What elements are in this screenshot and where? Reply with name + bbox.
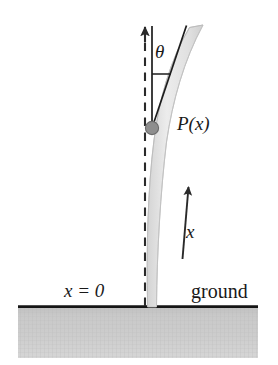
ground-texture	[18, 307, 258, 359]
flexible-rod	[147, 25, 203, 307]
point-function-label: P(x)	[177, 114, 210, 133]
x-axis-label: x	[186, 222, 194, 241]
diagram-canvas	[0, 0, 278, 365]
theta-label: θ	[155, 42, 164, 61]
physics-diagram-figure: θ P(x) x x = 0 ground	[0, 0, 278, 365]
ground-region	[18, 307, 258, 359]
point-P-marker	[145, 121, 158, 134]
rod-body	[147, 25, 203, 307]
ground-label: ground	[191, 281, 248, 301]
origin-label: x = 0	[64, 281, 104, 300]
